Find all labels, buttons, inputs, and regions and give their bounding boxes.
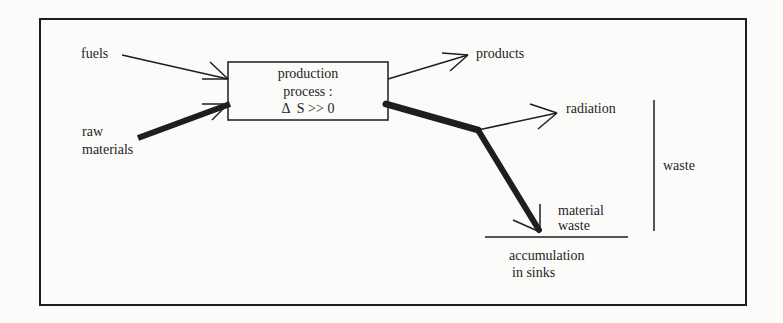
label-materials: materials: [82, 142, 133, 158]
label-accumulation: accumulation: [509, 248, 584, 264]
label-material-waste: waste: [558, 218, 590, 234]
label-waste: waste: [663, 158, 695, 174]
process-label-3: Δ S >> 0: [228, 101, 388, 117]
waste-stream: [386, 104, 539, 230]
label-radiation: radiation: [566, 101, 616, 117]
label-products: products: [476, 46, 524, 62]
label-fuels: fuels: [81, 46, 108, 62]
products-arrow: [388, 53, 468, 79]
fuels-arrow: [122, 55, 228, 79]
label-in-sinks: in sinks: [512, 265, 555, 281]
process-label-1: production: [228, 66, 388, 82]
label-raw: raw: [82, 124, 103, 140]
radiation-arrow: [478, 104, 557, 130]
label-material: material: [558, 203, 604, 219]
outer-frame: [40, 19, 746, 305]
process-label-2: process :: [228, 84, 388, 100]
raw-materials-arrow: [138, 104, 230, 138]
